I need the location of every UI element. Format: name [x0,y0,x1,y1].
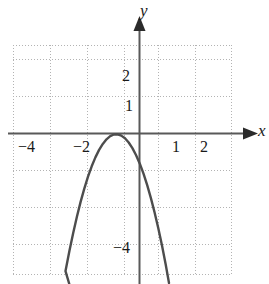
y-axis [134,16,146,284]
parabola-curve [66,134,170,284]
y-tick-label-neg4: −4 [113,240,130,256]
x-tick-label-1: 1 [172,139,180,155]
y-tick-label-2: 2 [122,68,130,84]
x-axis-arrowhead [243,128,258,140]
x-tick-label-neg2: −2 [73,139,90,155]
y-tick-label-1: 1 [125,98,133,114]
x-tick-label-neg4: −4 [18,139,35,155]
graph-figure: y x −4 −2 1 2 2 1 −4 [0,0,269,284]
coordinate-plane-plot [0,0,269,284]
x-axis-label: x [258,122,266,139]
x-tick-label-2: 2 [200,139,208,155]
y-axis-label: y [140,2,148,19]
x-axis [8,128,258,140]
